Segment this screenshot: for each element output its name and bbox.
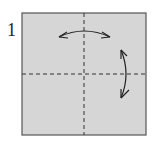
origami-diagram <box>0 0 157 145</box>
